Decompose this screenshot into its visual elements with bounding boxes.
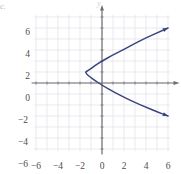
x-tick-label-0: 0 bbox=[94, 161, 110, 171]
x-tick-label-2: 2 bbox=[116, 161, 132, 171]
y-tick-label-neg2: −2 bbox=[12, 115, 28, 125]
axes bbox=[32, 5, 180, 155]
x-tick-label-neg2: −2 bbox=[72, 161, 88, 171]
x-tick-label-4: 4 bbox=[138, 161, 154, 171]
y-tick-label-6: 6 bbox=[14, 27, 30, 37]
x-tick-label-neg4: −4 bbox=[50, 161, 66, 171]
y-axis-label: y bbox=[97, 0, 101, 8]
y-tick-label-neg6: −6 bbox=[12, 159, 28, 169]
y-tick-label-0: 0 bbox=[14, 93, 30, 103]
y-tick-label-neg4: −4 bbox=[12, 137, 28, 147]
graph-figure: c. y 6 4 2 0 −2 −4 −6 −6 −4 −2 0 2 4 6 bbox=[0, 0, 181, 174]
problem-label: c. bbox=[0, 1, 5, 11]
y-tick-label-2: 2 bbox=[14, 71, 30, 81]
y-tick-label-4: 4 bbox=[14, 49, 30, 59]
x-tick-label-6: 6 bbox=[160, 161, 176, 171]
x-tick-label-neg6: −6 bbox=[28, 161, 44, 171]
